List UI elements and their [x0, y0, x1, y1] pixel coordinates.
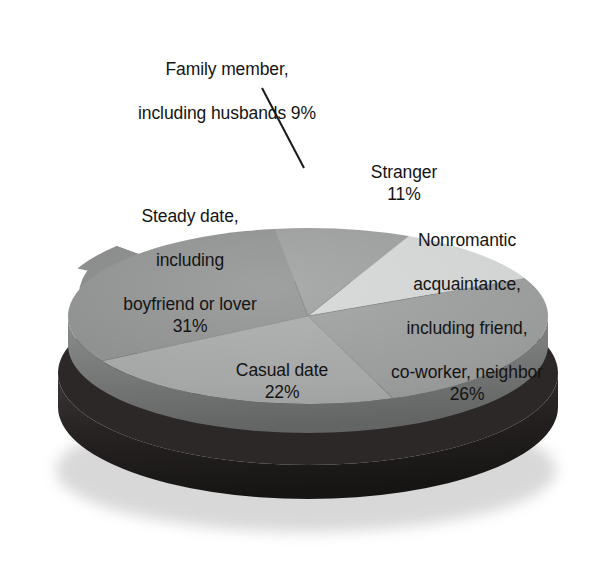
- pie-chart-graphic: [0, 0, 597, 564]
- pie-top-sheen: [68, 228, 548, 404]
- pie-chart-stage: [0, 0, 597, 564]
- pie-chart-page: Family member, including husbands 9% Str…: [0, 0, 597, 564]
- leader-line-family-member: [262, 88, 304, 168]
